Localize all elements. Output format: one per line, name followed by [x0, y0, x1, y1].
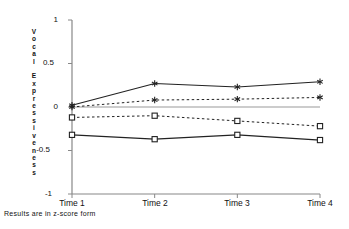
- data-point-square: [152, 137, 157, 142]
- x-tick-label-time-1: Time 1: [42, 198, 102, 208]
- chart-figure: V o c a l E x p r e s s i v e n e s s 1 …: [0, 0, 349, 229]
- series-line: [72, 97, 320, 107]
- y-tick-label-neg0.5: -0.5: [20, 145, 50, 154]
- series-layer: [69, 79, 323, 143]
- data-point-square: [152, 113, 157, 118]
- series-square-dotted: [69, 113, 322, 129]
- data-point-square: [69, 132, 74, 137]
- data-point-asterisk: [235, 96, 241, 102]
- y-tick-label-neg1: -1: [22, 189, 52, 198]
- series-line: [72, 116, 320, 126]
- data-point-square: [317, 124, 322, 129]
- data-point-square: [69, 115, 74, 120]
- chart-caption: Results are in z-score form: [4, 210, 96, 217]
- series-square-solid: [69, 132, 322, 142]
- data-point-square: [317, 137, 322, 142]
- x-axis-ticks: [72, 194, 320, 198]
- axis-lines: [72, 20, 320, 194]
- data-point-square: [235, 118, 240, 123]
- x-tick-label-time-4: Time 4: [290, 198, 349, 208]
- x-tick-label-time-2: Time 2: [125, 198, 185, 208]
- plot-area: [0, 0, 349, 229]
- series-line: [72, 135, 320, 140]
- x-tick-label-time-3: Time 3: [207, 198, 267, 208]
- y-tick-label-1: 1: [28, 15, 58, 24]
- y-tick-label-0: 0: [28, 102, 58, 111]
- data-point-square: [235, 132, 240, 137]
- series-line: [72, 82, 320, 105]
- y-tick-label-0.5: 0.5: [24, 58, 54, 67]
- series-asterisk-dotted: [69, 94, 323, 110]
